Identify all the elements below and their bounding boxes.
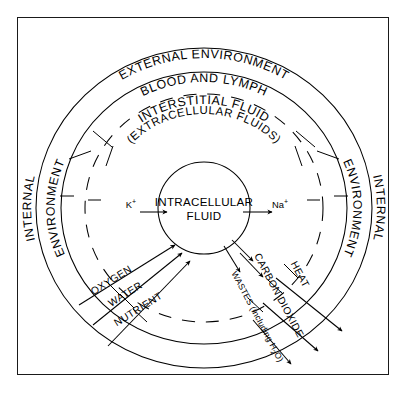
label-potassium: K+ — [126, 198, 136, 210]
figure-root: EXTERNAL ENVIRONMENT BLOOD AND LYMPH INT… — [0, 0, 408, 411]
label-intracellular-fluid-line1: INTRACELLULAR — [155, 195, 254, 208]
label-intracellular-fluid-line2: FLUID — [187, 209, 222, 222]
compartment-diagram: EXTERNAL ENVIRONMENT BLOOD AND LYMPH INT… — [0, 0, 408, 411]
label-sodium: Na+ — [272, 198, 288, 210]
arrow-wastes-inner — [224, 246, 240, 272]
ring-intracellular-fluid — [158, 162, 250, 254]
label-environment-right: ENVIRONMENT — [340, 157, 364, 259]
separator-left-vert — [106, 146, 113, 166]
arrow-heat-inner — [232, 240, 253, 261]
label-internal-left: INTERNAL — [20, 173, 38, 242]
label-environment-left: ENVIRONMENT — [43, 157, 67, 259]
label-internal-right: INTERNAL — [370, 173, 388, 242]
separator-right-vert — [295, 146, 302, 166]
ring-interstitial-fluid — [85, 94, 323, 322]
